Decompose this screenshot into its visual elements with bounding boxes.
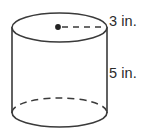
cylinder-bottom-front-arc xyxy=(12,113,107,128)
cylinder-figure: 3 in. 5 in. xyxy=(0,0,147,139)
cylinder-bottom-back-arc-dashed xyxy=(12,98,107,113)
center-point-dot xyxy=(55,24,61,30)
radius-dimension-label: 3 in. xyxy=(109,14,137,29)
height-dimension-label: 5 in. xyxy=(109,66,137,81)
